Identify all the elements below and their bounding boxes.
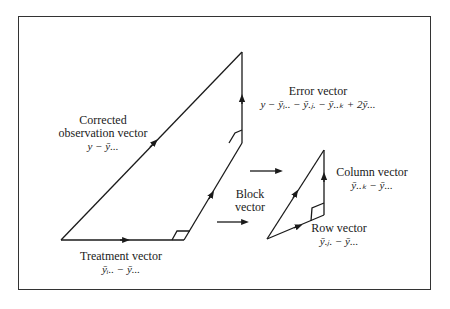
column-vector-label: Column vector ȳ..ₖ − ȳ... [330,166,414,192]
corrected-formula: y − ȳ... [44,140,162,153]
row-vector-label: Row vector ȳ.ⱼ. − ȳ... [305,222,373,248]
column-formula: ȳ..ₖ − ȳ... [330,179,414,192]
treatment-title: Treatment vector [70,250,172,263]
corrected-observation-label: Corrected observation vector y − ȳ... [44,114,162,153]
block-title-line2: vector [230,201,270,214]
row-title: Row vector [305,222,373,235]
row-formula: ȳ.ⱼ. − ȳ... [305,235,373,248]
error-title: Error vector [248,85,388,98]
error-formula: y − ȳᵢ.. − ȳ.ⱼ. − ȳ..ₖ + 2ȳ... [248,98,388,111]
corrected-title-line2: observation vector [44,127,162,140]
treatment-vector-label: Treatment vector ȳᵢ.. − ȳ... [70,250,172,276]
vector-diagram [0,0,450,309]
treatment-formula: ȳᵢ.. − ȳ... [70,263,172,276]
arrow-icon [294,226,299,228]
right-angle-marker-top [229,130,242,143]
block-vector-label: Block vector [230,188,270,214]
column-title: Column vector [330,166,414,179]
error-vector-label: Error vector y − ȳᵢ.. − ȳ.ⱼ. − ȳ..ₖ + 2ȳ… [248,85,388,111]
